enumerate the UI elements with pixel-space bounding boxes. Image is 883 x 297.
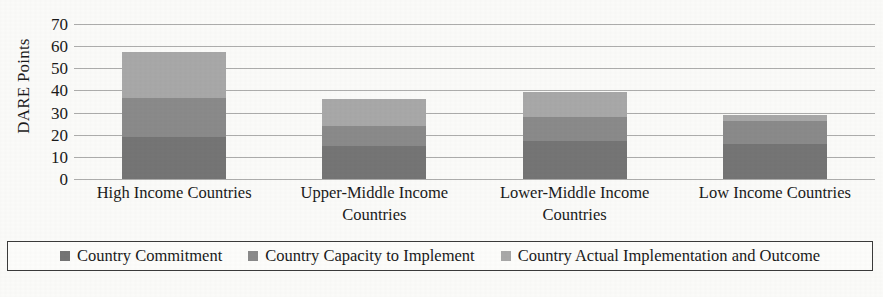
bar-segment-2[interactable]	[322, 126, 426, 146]
bar-segment-1[interactable]	[322, 146, 426, 179]
bar-slot	[475, 24, 675, 179]
stacked-bar[interactable]	[723, 115, 827, 179]
legend-item[interactable]: Country Commitment	[60, 248, 222, 265]
x-axis-label: Upper-Middle Income Countries	[274, 182, 474, 230]
y-axis-tick-50: 50	[51, 60, 68, 77]
stacked-bar[interactable]	[523, 92, 627, 179]
legend-swatch-icon	[501, 251, 511, 261]
y-axis-tick-60: 60	[51, 38, 68, 55]
x-axis-label: Lower-Middle Income Countries	[475, 182, 675, 230]
x-axis-label: Low Income Countries	[675, 182, 875, 230]
x-axis-label: High Income Countries	[74, 182, 274, 230]
legend-swatch-icon	[60, 251, 70, 261]
bar-segment-3[interactable]	[723, 115, 827, 122]
chart-figure: DARE Points 706050403020100 High Income …	[0, 0, 883, 297]
chart-legend: Country CommitmentCountry Capacity to Im…	[7, 241, 873, 271]
bar-slot	[74, 24, 274, 179]
bar-segment-2[interactable]	[723, 121, 827, 143]
bar-segment-3[interactable]	[122, 52, 226, 99]
stacked-bar[interactable]	[122, 52, 226, 179]
y-axis-tick-10: 10	[51, 148, 68, 165]
y-axis-tick-70: 70	[51, 16, 68, 33]
y-axis-tick-labels: 706050403020100	[30, 24, 68, 179]
legend-swatch-icon	[248, 251, 258, 261]
stacked-bar[interactable]	[322, 99, 426, 179]
bar-slot	[274, 24, 474, 179]
y-axis-tick-40: 40	[51, 82, 68, 99]
plot-canvas	[74, 24, 875, 179]
chart-plot-area: DARE Points 706050403020100 High Income …	[0, 0, 883, 232]
bar-segment-3[interactable]	[523, 92, 627, 117]
y-axis-tick-20: 20	[51, 126, 68, 143]
gridline-0	[74, 179, 875, 180]
bar-segment-3[interactable]	[322, 99, 426, 126]
legend-item[interactable]: Country Capacity to Implement	[248, 248, 474, 265]
legend-item[interactable]: Country Actual Implementation and Outcom…	[501, 248, 820, 265]
legend-label: Country Commitment	[77, 248, 222, 265]
bar-segment-1[interactable]	[523, 141, 627, 179]
bar-segment-1[interactable]	[723, 144, 827, 179]
y-axis-tick-0: 0	[60, 171, 69, 188]
bar-group	[74, 24, 875, 179]
bar-segment-2[interactable]	[523, 117, 627, 141]
y-axis-tick-30: 30	[51, 104, 68, 121]
x-axis-category-labels: High Income CountriesUpper-Middle Income…	[74, 182, 875, 230]
legend-label: Country Actual Implementation and Outcom…	[518, 248, 820, 265]
bar-segment-2[interactable]	[122, 98, 226, 137]
legend-label: Country Capacity to Implement	[265, 248, 474, 265]
bar-slot	[675, 24, 875, 179]
bar-segment-1[interactable]	[122, 137, 226, 179]
